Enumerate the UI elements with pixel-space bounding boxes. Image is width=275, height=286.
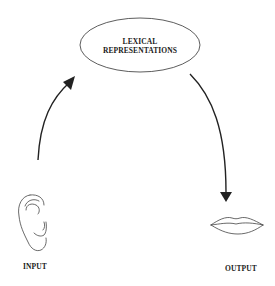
output-label: OUTPUT	[210, 264, 272, 273]
lips-icon	[211, 217, 263, 234]
lexical-label-line1: LEXICAL	[80, 37, 200, 46]
lexical-representations-label: LEXICAL REPRESENTATIONS	[80, 37, 200, 56]
lexicon-to-output-arrow	[190, 74, 232, 202]
lexical-label-line2: REPRESENTATIONS	[80, 46, 200, 55]
ear-icon	[19, 195, 47, 251]
input-to-lexicon-arrow	[38, 76, 75, 160]
input-label: INPUT	[5, 262, 65, 271]
arrowhead-icon	[220, 192, 232, 202]
